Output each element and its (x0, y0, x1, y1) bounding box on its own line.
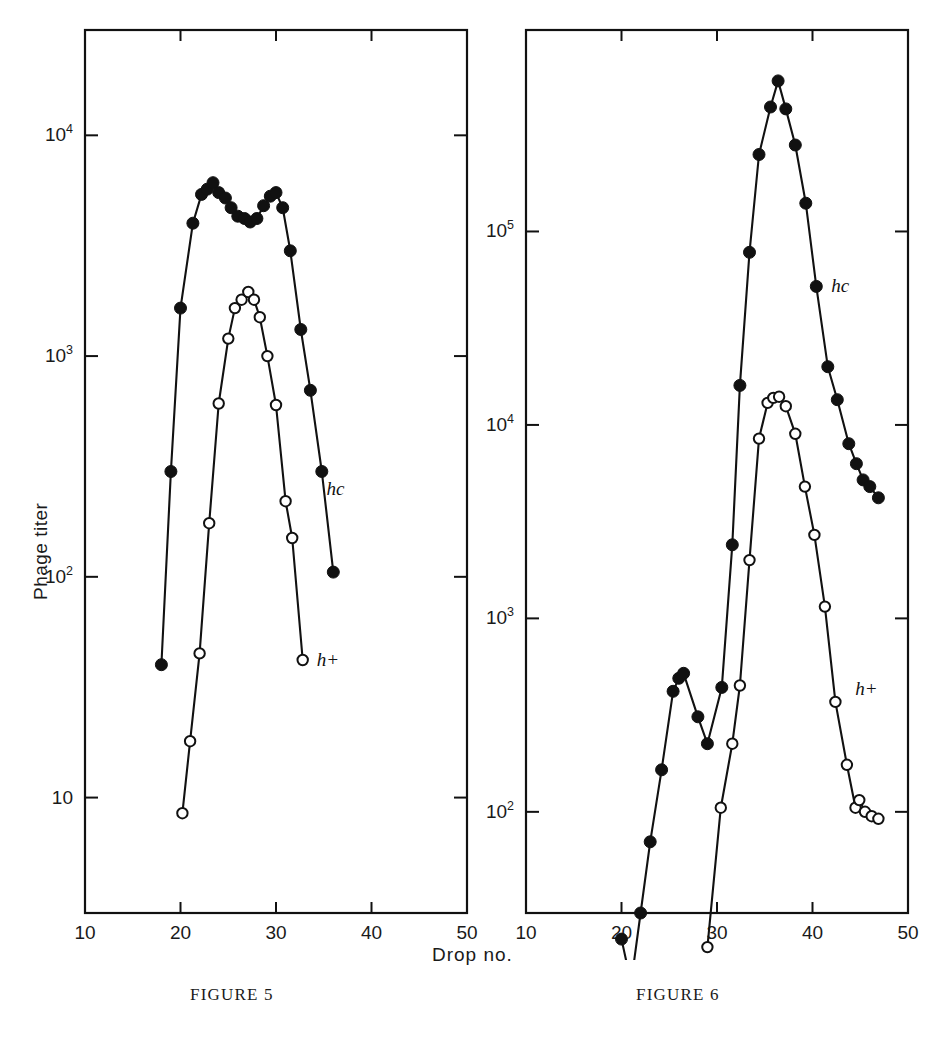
data-point-hplus (781, 401, 791, 411)
data-point-hc (251, 213, 263, 225)
x-tick-label: 30 (265, 922, 286, 943)
data-point-hplus (223, 333, 233, 343)
series-label-hplus: h+ (855, 678, 877, 699)
y-tick-label: 105 (486, 218, 514, 241)
figure-6-caption-text: FIGURE 6 (636, 985, 720, 1004)
data-point-hplus (214, 398, 224, 408)
data-point-hplus (774, 392, 784, 402)
data-point-hc (780, 103, 792, 115)
data-point-hc (635, 907, 647, 919)
series-label-hc: hc (831, 275, 850, 296)
figure-5-plot: 102030405010102103104hch+ (0, 0, 500, 960)
series-line-hplus (707, 397, 878, 947)
data-point-hplus (255, 312, 265, 322)
data-point-hplus (830, 697, 840, 707)
y-tick-label: 103 (486, 605, 514, 628)
y-tick-label: 103 (45, 343, 73, 366)
data-point-hplus (249, 295, 259, 305)
data-point-hplus (280, 496, 290, 506)
data-point-hc (284, 245, 296, 257)
data-point-hc (667, 685, 679, 697)
data-point-hplus (842, 760, 852, 770)
data-point-hc (175, 302, 187, 314)
data-point-hc (734, 379, 746, 391)
y-tick-label: 102 (486, 799, 514, 822)
y-axis-title: Phage titer (30, 503, 52, 600)
data-point-hc (295, 324, 307, 336)
data-point-hc (616, 933, 628, 945)
data-point-hc (822, 361, 834, 373)
data-point-hc (716, 681, 728, 693)
figure-page: 102030405010102103104hch+ Phage titer Dr… (0, 0, 945, 1039)
data-point-hc (872, 492, 884, 504)
series-line-hplus (182, 292, 302, 813)
data-point-hplus (262, 351, 272, 361)
x-tick-label: 50 (897, 922, 918, 943)
data-point-hc (864, 481, 876, 493)
data-point-hplus (177, 808, 187, 818)
x-tick-label: 40 (802, 922, 823, 943)
data-point-hc (701, 738, 713, 750)
data-point-hc (772, 75, 784, 87)
figure-5-panel: 102030405010102103104hch+ (0, 0, 500, 960)
x-tick-label: 20 (170, 922, 191, 943)
data-point-hplus (185, 736, 195, 746)
data-point-hplus (287, 533, 297, 543)
x-tick-label: 10 (74, 922, 95, 943)
data-point-hc (187, 217, 199, 229)
data-point-hplus (271, 400, 281, 410)
data-point-hc (753, 149, 765, 161)
data-point-hc (155, 659, 167, 671)
data-point-hplus (702, 942, 712, 952)
data-point-hc (316, 466, 328, 478)
data-point-hc (800, 197, 812, 209)
x-tick-label: 40 (361, 922, 382, 943)
data-point-hplus (727, 739, 737, 749)
data-point-hplus (744, 555, 754, 565)
data-point-hc (789, 139, 801, 151)
data-point-hplus (194, 648, 204, 658)
figure-6-panel: 1020304050102103104105hch+ (445, 0, 945, 960)
data-point-hc (644, 836, 656, 848)
y-tick-label: 10 (52, 787, 73, 808)
data-point-hc (831, 394, 843, 406)
x-tick-label: 10 (515, 922, 536, 943)
data-point-hplus (754, 433, 764, 443)
data-point-hc (843, 438, 855, 450)
data-point-hplus (790, 429, 800, 439)
data-point-hplus (298, 655, 308, 665)
plot-frame (85, 30, 467, 913)
series-label-hplus: h+ (317, 649, 339, 670)
data-point-hc (850, 458, 862, 470)
figure-5-caption-text: FIGURE 5 (190, 985, 274, 1004)
y-tick-label: 104 (45, 122, 73, 145)
data-point-hc (692, 711, 704, 723)
figure-5-caption: FIGURE 5 (190, 985, 274, 1005)
data-point-hc (744, 246, 756, 258)
data-point-hplus (809, 530, 819, 540)
series-label-hc: hc (326, 478, 345, 499)
data-point-hc (277, 202, 289, 214)
figure-6-caption: FIGURE 6 (636, 985, 720, 1005)
series-line-hc (161, 183, 333, 665)
data-point-hplus (735, 680, 745, 690)
data-point-hc (656, 764, 668, 776)
data-point-hc (765, 101, 777, 113)
data-point-hplus (800, 481, 810, 491)
data-point-hplus (820, 601, 830, 611)
data-point-hc (678, 667, 690, 679)
data-point-hc (165, 466, 177, 478)
data-point-hplus (204, 518, 214, 528)
data-point-hc (726, 539, 738, 551)
figure-6-plot: 1020304050102103104105hch+ (445, 0, 945, 960)
data-point-hc (304, 384, 316, 396)
data-point-hplus (716, 803, 726, 813)
data-point-hc (810, 280, 822, 292)
series-line-hc (622, 81, 879, 960)
data-point-hplus (873, 814, 883, 824)
data-point-hplus (854, 795, 864, 805)
data-point-hc (270, 187, 282, 199)
y-tick-label: 104 (486, 412, 514, 435)
data-point-hc (327, 566, 339, 578)
